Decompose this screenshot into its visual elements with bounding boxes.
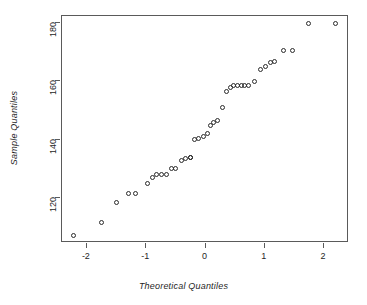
- data-point: [220, 105, 225, 110]
- y-axis-tick-label: 160: [48, 80, 58, 98]
- x-axis-tick-label: 2: [308, 251, 338, 261]
- data-point: [224, 89, 229, 94]
- y-axis-tick-label: 180: [48, 22, 58, 40]
- x-axis-tick-label: 1: [249, 251, 279, 261]
- data-point: [145, 181, 150, 186]
- plot-panel: [61, 15, 348, 242]
- data-point: [71, 233, 76, 238]
- data-point: [272, 59, 277, 64]
- data-point: [252, 79, 257, 84]
- data-point: [164, 172, 169, 177]
- data-point: [281, 48, 286, 53]
- data-point: [306, 21, 311, 26]
- data-point: [205, 131, 210, 136]
- data-point: [290, 48, 295, 53]
- y-axis-title: Sample Quantiles: [9, 91, 19, 165]
- x-axis-tick: [264, 243, 265, 248]
- x-axis-tick: [323, 243, 324, 248]
- data-point: [333, 21, 338, 26]
- data-point: [133, 191, 138, 196]
- data-point: [188, 155, 193, 160]
- data-point: [126, 191, 131, 196]
- data-point: [215, 118, 220, 123]
- data-point: [263, 64, 268, 69]
- x-axis-tick-label: -1: [130, 251, 160, 261]
- data-point: [114, 200, 119, 205]
- y-axis-tick-label: 120: [48, 197, 58, 215]
- x-axis-tick-label: -2: [71, 251, 101, 261]
- qq-plot-figure: -2-1012120140160180 Theoretical Quantile…: [0, 0, 367, 305]
- y-axis-tick-label: 140: [48, 139, 58, 157]
- x-axis-tick-label: 0: [190, 251, 220, 261]
- data-point: [246, 83, 251, 88]
- data-point: [173, 166, 178, 171]
- x-axis-tick: [86, 243, 87, 248]
- data-point: [99, 220, 104, 225]
- x-axis-title: Theoretical Quantiles: [0, 281, 367, 291]
- data-point: [258, 67, 263, 72]
- x-axis-tick: [145, 243, 146, 248]
- x-axis-tick: [205, 243, 206, 248]
